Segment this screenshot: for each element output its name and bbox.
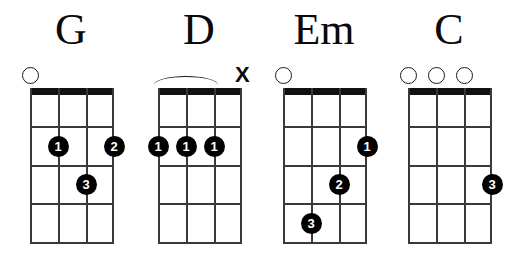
chord-name-label: Em	[259, 4, 389, 56]
finger-dot: 3	[301, 213, 322, 234]
chord-name-label: G	[6, 4, 136, 56]
string-line	[436, 88, 438, 243]
open-string-marker	[400, 67, 417, 84]
string-line	[58, 88, 60, 243]
string-line	[214, 88, 216, 243]
chord-name-label: D	[134, 4, 264, 56]
fret-line	[158, 242, 242, 244]
muted-string-marker: X	[235, 64, 250, 86]
finger-dot: 1	[148, 136, 169, 157]
chord-name-label: C	[384, 4, 514, 56]
string-markers-row	[259, 64, 389, 88]
nut-bar	[30, 88, 114, 95]
finger-dot: 1	[48, 136, 69, 157]
fret-line	[158, 126, 242, 128]
string-line	[86, 88, 88, 243]
fret-line	[30, 165, 114, 167]
open-string-marker	[428, 67, 445, 84]
chord-diagram-d: DX111	[134, 0, 264, 264]
chord-diagram-g: G123	[6, 0, 136, 264]
string-line	[339, 88, 341, 243]
open-string-marker	[456, 67, 473, 84]
string-line	[283, 88, 285, 243]
open-string-marker	[275, 67, 292, 84]
chord-diagram-c: C3	[384, 0, 514, 264]
fretboard-grid	[158, 88, 242, 243]
string-markers-row	[6, 64, 136, 88]
finger-dot: 3	[76, 174, 97, 195]
fret-line	[283, 165, 367, 167]
string-line	[464, 88, 466, 243]
finger-dot: 1	[176, 136, 197, 157]
string-markers-row: X	[134, 64, 264, 88]
string-markers-row	[384, 64, 514, 88]
fret-line	[30, 126, 114, 128]
finger-dot: 2	[104, 136, 125, 157]
finger-dot: 1	[357, 136, 378, 157]
string-line	[112, 88, 114, 243]
string-line	[186, 88, 188, 243]
fretboard-grid	[408, 88, 492, 243]
fret-line	[30, 242, 114, 244]
nut-bar	[158, 88, 242, 95]
string-line	[490, 88, 492, 243]
finger-dot: 3	[482, 174, 503, 195]
fretboard-grid	[30, 88, 114, 243]
string-line	[365, 88, 367, 243]
nut-bar	[408, 88, 492, 95]
fret-line	[283, 242, 367, 244]
fret-line	[408, 203, 492, 205]
fret-line	[158, 165, 242, 167]
fret-line	[283, 203, 367, 205]
fret-line	[408, 242, 492, 244]
string-line	[408, 88, 410, 243]
fret-line	[158, 203, 242, 205]
fretboard-grid	[283, 88, 367, 243]
fret-line	[408, 165, 492, 167]
nut-bar	[283, 88, 367, 95]
string-line	[158, 88, 160, 243]
finger-dot: 2	[329, 174, 350, 195]
string-line	[30, 88, 32, 243]
chord-chart-sheet: G123DX111Em123C3	[0, 0, 523, 264]
finger-dot: 1	[204, 136, 225, 157]
fret-line	[408, 126, 492, 128]
open-string-marker	[22, 67, 39, 84]
barre-arc-indicator	[154, 76, 218, 85]
chord-diagram-em: Em123	[259, 0, 389, 264]
fret-line	[283, 126, 367, 128]
fret-line	[30, 203, 114, 205]
string-line	[240, 88, 242, 243]
